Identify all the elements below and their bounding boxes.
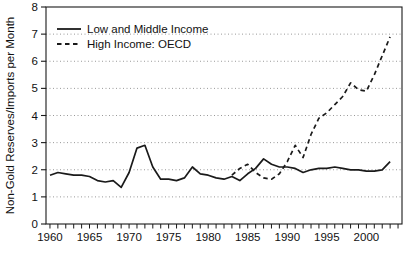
y-axis-title: Non-Gold Reserves/Imports per Month <box>4 17 16 215</box>
y-tick-label-5: 5 <box>32 82 38 94</box>
x-tick-label-1985: 1985 <box>235 231 261 243</box>
x-tick-label-1960: 1960 <box>37 231 63 243</box>
y-tick-label-2: 2 <box>32 164 38 176</box>
x-tick-label-1995: 1995 <box>314 231 340 243</box>
x-tick-label-1975: 1975 <box>156 231 182 243</box>
y-tick-label-1: 1 <box>32 191 38 203</box>
legend-item-low-and-middle-income: Low and Middle Income <box>57 23 208 35</box>
x-tick-label-1970: 1970 <box>116 231 142 243</box>
y-tick-label-8: 8 <box>32 1 38 13</box>
x-tick-label-1980: 1980 <box>195 231 221 243</box>
grid-layer <box>46 34 402 197</box>
y-tick-label-4: 4 <box>32 110 39 122</box>
legend-item-high-income-oecd: High Income: OECD <box>57 38 191 50</box>
y-tick-label-3: 3 <box>32 137 38 149</box>
series-layer <box>50 37 390 188</box>
legend-label: Low and Middle Income <box>87 23 208 35</box>
y-tick-label-0: 0 <box>32 218 38 230</box>
x-axis-tick-labels: 196019651970197519801985199019952000 <box>37 231 379 243</box>
x-tick-label-2000: 2000 <box>354 231 380 243</box>
y-axis-ticks <box>41 7 46 224</box>
legend-label: High Income: OECD <box>87 38 191 50</box>
chart-figure: 012345678 196019651970197519801985199019… <box>0 0 412 259</box>
y-tick-label-7: 7 <box>32 28 38 40</box>
y-axis-tick-labels: 012345678 <box>32 1 39 230</box>
chart-svg: 012345678 196019651970197519801985199019… <box>0 0 412 259</box>
x-tick-label-1965: 1965 <box>77 231 103 243</box>
x-tick-label-1990: 1990 <box>274 231 300 243</box>
series-line-low-and-middle-income <box>50 145 390 187</box>
series-line-high-income-oecd <box>232 37 390 179</box>
y-tick-label-6: 6 <box>32 55 38 67</box>
x-axis-ticks <box>50 224 398 229</box>
legend: Low and Middle IncomeHigh Income: OECD <box>57 23 208 50</box>
